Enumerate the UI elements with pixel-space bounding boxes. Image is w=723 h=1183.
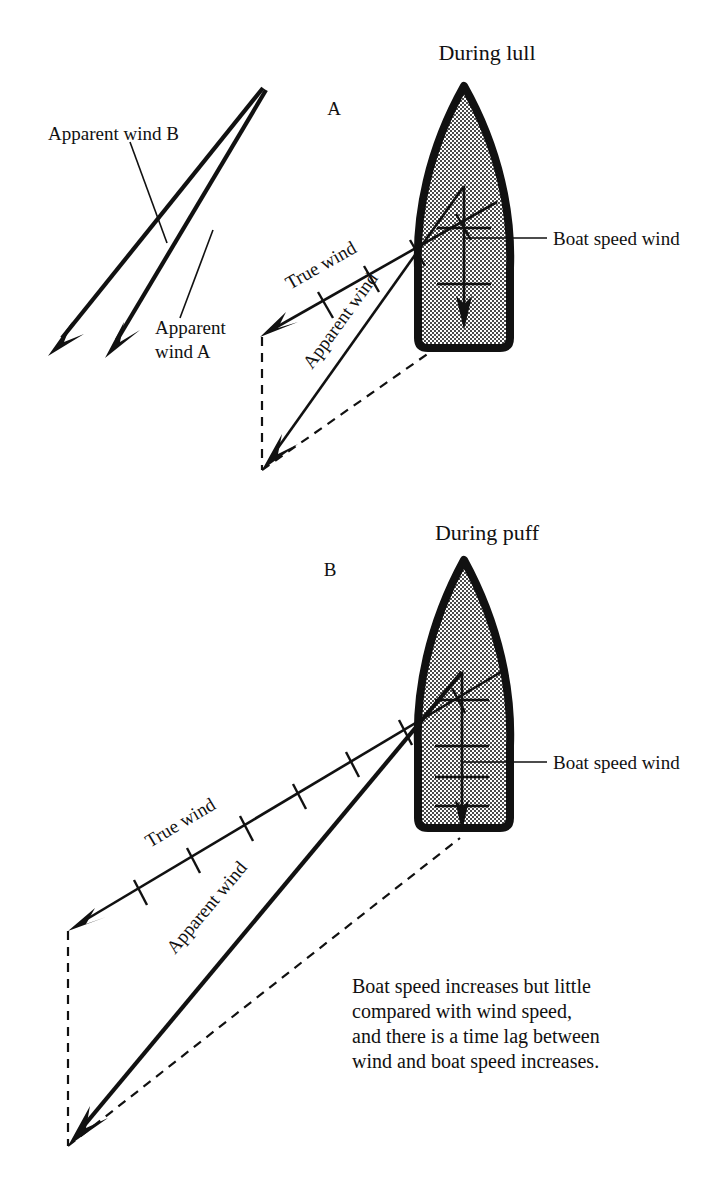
label-boat-speed-wind-b: Boat speed wind <box>553 752 680 773</box>
panel-b-title: During puff <box>435 520 540 545</box>
dashed-boat-vector-a <box>262 348 436 470</box>
caption-line-1: Boat speed increases but little <box>352 975 591 998</box>
caption-line-3: and there is a time lag between <box>352 1025 600 1048</box>
caption-line-2: compared with wind speed, <box>352 1000 572 1023</box>
figure-page: Apparent wind B Apparent wind A During l… <box>0 0 723 1183</box>
caption-block: Boat speed increases but little compared… <box>352 975 600 1073</box>
panel-b-letter: B <box>324 559 337 580</box>
label-apparent-wind-a-line2: wind A <box>155 341 211 362</box>
leader-apparent-wind-a <box>180 230 213 318</box>
label-true-wind-b: True wind <box>141 793 219 851</box>
vector-apparent-wind-panel-b <box>68 672 462 1146</box>
panel-a-title: During lull <box>438 40 535 65</box>
label-boat-speed-wind-a: Boat speed wind <box>553 228 680 249</box>
panel-a-letter: A <box>327 98 341 119</box>
apparent-wind-diagram: Apparent wind B Apparent wind A During l… <box>0 0 723 1183</box>
label-apparent-wind-a-line1: Apparent <box>155 317 226 338</box>
label-apparent-wind-b: Apparent wind B <box>48 123 179 144</box>
caption-line-4: wind and boat speed increases. <box>352 1050 599 1073</box>
